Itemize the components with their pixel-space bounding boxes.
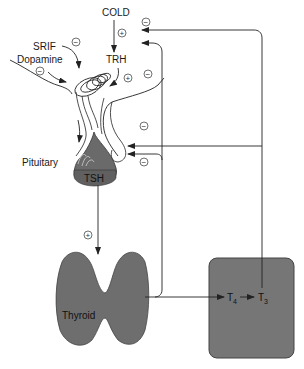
pituitary-label: Pituitary bbox=[22, 157, 58, 168]
tsh-label: TSH bbox=[84, 173, 104, 184]
minus-sign-t3-tsh: − bbox=[140, 122, 148, 131]
svg-text:−: − bbox=[142, 158, 147, 167]
svg-text:+: + bbox=[126, 74, 131, 83]
peripheral-tissue-box bbox=[209, 258, 294, 358]
minus-sign-t4-trh: − bbox=[144, 70, 152, 79]
srif-label: SRIF bbox=[33, 41, 56, 52]
thyroid-label: Thyroid bbox=[62, 310, 95, 321]
thyroid-gland bbox=[56, 252, 149, 345]
hypothalamus-outline bbox=[10, 60, 164, 156]
svg-text:+: + bbox=[86, 231, 91, 240]
svg-text:−: − bbox=[38, 67, 43, 76]
plus-sign-cold: + bbox=[118, 29, 126, 38]
median-eminence-coils bbox=[72, 71, 112, 100]
svg-text:−: − bbox=[74, 38, 79, 47]
cold-label: COLD bbox=[102, 7, 130, 18]
minus-sign-dopamine: − bbox=[36, 67, 44, 76]
hpt-axis-diagram: COLD SRIF Dopamine TRH Pituitary TSH Thy… bbox=[0, 0, 304, 369]
trh-label: TRH bbox=[106, 54, 127, 65]
dopamine-label: Dopamine bbox=[17, 54, 63, 65]
svg-text:−: − bbox=[144, 18, 149, 27]
minus-sign-srif: − bbox=[72, 38, 80, 47]
svg-text:−: − bbox=[142, 122, 147, 131]
svg-text:+: + bbox=[120, 29, 125, 38]
minus-sign-t4-tsh: − bbox=[140, 158, 148, 167]
plus-sign-trh: + bbox=[124, 74, 132, 83]
svg-text:−: − bbox=[146, 70, 151, 79]
plus-sign-tsh: + bbox=[84, 231, 92, 240]
minus-sign-t3-trh: − bbox=[142, 18, 150, 27]
